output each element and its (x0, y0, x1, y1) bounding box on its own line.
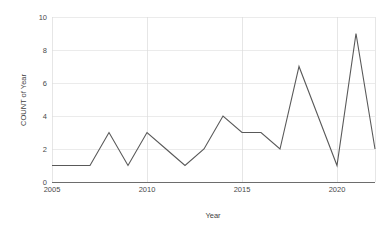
y-tick-label: 8 (43, 46, 47, 55)
y-axis-title: COUNT of Year (19, 74, 28, 126)
chart-background (0, 0, 387, 233)
y-tick-label: 2 (43, 145, 47, 154)
y-tick-label: 4 (43, 112, 47, 121)
line-chart: 0246810 2005201020152020 COUNT of Year Y… (0, 0, 387, 233)
x-tick-label: 2015 (234, 185, 251, 194)
x-axis-title: Year (205, 211, 221, 220)
y-tick-label: 10 (39, 13, 47, 22)
chart-canvas: 0246810 2005201020152020 COUNT of Year Y… (0, 0, 387, 233)
x-tick-label: 2010 (139, 185, 156, 194)
x-tick-label: 2005 (44, 185, 61, 194)
y-tick-label: 6 (43, 79, 47, 88)
x-tick-label: 2020 (329, 185, 346, 194)
